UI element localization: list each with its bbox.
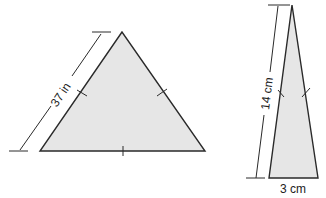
dimension-line (270, 6, 278, 72)
base-length-label: 3 cm (280, 182, 306, 196)
isosceles-triangle: 14 cm 3 cm (246, 5, 318, 196)
side-length-label: 14 cm (258, 76, 276, 110)
dimension-line (256, 115, 264, 178)
diagram-canvas: 37 in 14 cm 3 cm (0, 0, 326, 198)
triangle-shape (269, 5, 318, 178)
side-length-label: 37 in (48, 80, 74, 109)
equilateral-triangle: 37 in (9, 32, 205, 156)
